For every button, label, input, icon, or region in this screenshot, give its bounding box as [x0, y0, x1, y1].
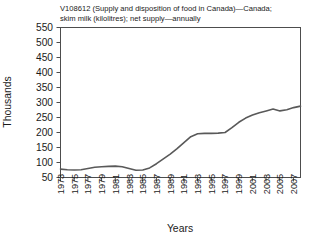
x-tick-label: 1985 [138, 174, 148, 194]
x-tick-label: 1977 [83, 174, 93, 194]
x-tick-label: 1997 [220, 174, 230, 194]
y-tick-label: 50 [42, 172, 54, 183]
chart-title-line-1: V108612 (Supply and disposition of food … [60, 4, 272, 13]
x-tick-1995: 1995 [207, 174, 217, 194]
x-tick-label: 1973 [56, 174, 66, 194]
x-tick-1985: 1985 [138, 174, 148, 194]
x-tick-2003: 2003 [262, 174, 272, 194]
x-tick-1973: 1973 [56, 174, 66, 194]
x-tick-label: 2003 [262, 174, 272, 194]
y-axis-label: Thousands [2, 76, 13, 127]
y-tick-label: 100 [36, 157, 53, 168]
x-tick-1993: 1993 [193, 174, 203, 194]
x-tick-1991: 1991 [179, 174, 189, 194]
y-tick-label: 400 [36, 67, 53, 78]
x-tick-label: 2001 [248, 174, 258, 194]
y-tick-label: 200 [36, 127, 53, 138]
x-tick-1999: 1999 [234, 174, 244, 194]
x-tick-1981: 1981 [111, 174, 121, 194]
x-tick-1983: 1983 [125, 174, 135, 194]
x-tick-label: 1981 [111, 174, 121, 194]
y-tick-label: 150 [36, 142, 53, 153]
x-tick-label: 2007 [289, 174, 299, 194]
y-tick-label: 450 [36, 52, 53, 63]
x-tick-2007: 2007 [289, 174, 299, 194]
x-axis-label: Years [167, 223, 193, 234]
x-tick-1987: 1987 [152, 174, 162, 194]
x-tick-label: 1989 [166, 174, 176, 194]
chart-figure: V108612 (Supply and disposition of food … [0, 0, 314, 241]
x-tick-label: 1991 [179, 174, 189, 194]
x-tick-1977: 1977 [83, 174, 93, 194]
x-tick-2005: 2005 [275, 174, 285, 194]
y-tick-label: 550 [36, 22, 53, 33]
x-tick-label: 1999 [234, 174, 244, 194]
x-tick-label: 1979 [97, 174, 107, 194]
x-tick-label: 1983 [125, 174, 135, 194]
x-tick-label: 1975 [70, 174, 80, 194]
y-tick-label: 250 [36, 112, 53, 123]
x-tick-label: 2005 [275, 174, 285, 194]
x-tick-1975: 1975 [70, 174, 80, 194]
y-tick-label: 300 [36, 97, 53, 108]
chart-title-line-2: skim milk (kilolitres); net supply—annua… [60, 14, 201, 23]
y-tick-label: 350 [36, 82, 53, 93]
x-tick-label: 1995 [207, 174, 217, 194]
x-tick-label: 1993 [193, 174, 203, 194]
x-tick-1979: 1979 [97, 174, 107, 194]
x-tick-label: 1987 [152, 174, 162, 194]
y-tick-label: 500 [36, 37, 53, 48]
x-tick-2001: 2001 [248, 174, 258, 194]
x-tick-1997: 1997 [220, 174, 230, 194]
x-tick-1989: 1989 [166, 174, 176, 194]
